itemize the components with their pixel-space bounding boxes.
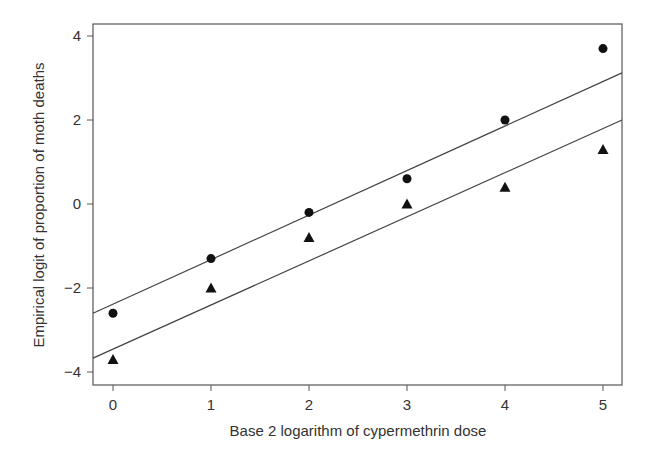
fit-line-triangles — [93, 120, 622, 358]
y-tick-label: 0 — [73, 195, 81, 212]
y-axis-label: Empirical logit of proportion of moth de… — [30, 62, 47, 347]
fit-line-circles — [93, 73, 622, 313]
x-tick-label: 2 — [305, 396, 313, 413]
y-axis: −4−2024 — [64, 27, 93, 380]
circle-marker — [403, 174, 412, 183]
x-tick-label: 5 — [599, 396, 607, 413]
circle-marker — [207, 254, 216, 263]
y-tick-label: −4 — [64, 363, 81, 380]
x-axis-label: Base 2 logarithm of cypermethrin dose — [230, 422, 487, 439]
x-tick-label: 0 — [109, 396, 117, 413]
triangle-marker — [598, 144, 609, 154]
x-tick-label: 3 — [403, 396, 411, 413]
y-tick-label: 4 — [73, 27, 81, 44]
data-points — [108, 44, 609, 364]
y-tick-label: −2 — [64, 279, 81, 296]
x-axis: 012345 — [109, 385, 607, 413]
triangle-marker — [304, 232, 315, 242]
circle-marker — [305, 208, 314, 217]
plot-frame — [93, 24, 622, 385]
triangle-marker — [108, 354, 119, 364]
x-tick-label: 1 — [207, 396, 215, 413]
fit-lines — [93, 73, 622, 358]
circle-marker — [501, 116, 510, 125]
x-tick-label: 4 — [501, 396, 509, 413]
y-tick-label: 2 — [73, 111, 81, 128]
plot-border — [93, 24, 622, 385]
triangle-marker — [500, 182, 511, 192]
triangle-marker — [206, 283, 217, 293]
circle-marker — [599, 44, 608, 53]
circle-marker — [109, 309, 118, 318]
scatter-chart: 012345 −4−2024 Base 2 logarithm of cyper… — [0, 0, 654, 459]
triangle-marker — [402, 199, 413, 209]
